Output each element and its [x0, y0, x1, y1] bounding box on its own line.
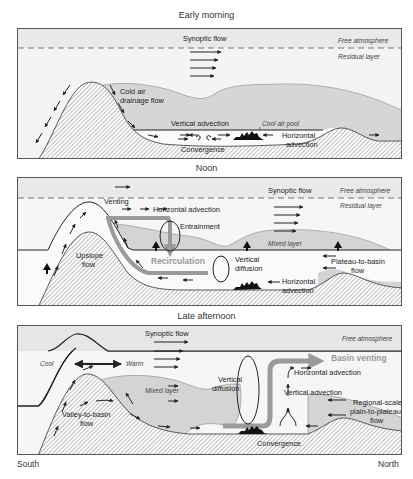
label-convergence: Convergence — [257, 440, 301, 448]
panel-late-afternoon: Synoptic flow Free atmosphere Cool Warm … — [17, 325, 402, 455]
label-synoptic-flow: Synoptic flow — [145, 330, 189, 338]
label-vertical-diffusion-2: diffusion — [235, 265, 262, 273]
label-venting: Venting — [104, 198, 129, 206]
label-residual-layer: Residual layer — [340, 202, 382, 210]
label-residual-layer: Residual layer — [338, 53, 380, 61]
label-entrainment: Entrainment — [180, 223, 220, 231]
panel-noon: Synoptic flow Free atmosphere Residual l… — [17, 177, 402, 306]
label-upslope-2: flow — [82, 261, 95, 269]
panel-title-early-morning: Early morning — [0, 10, 413, 20]
label-valley-to-basin-1: Valley-to-basin — [62, 411, 110, 419]
label-plateau-to-basin-2: flow — [351, 267, 364, 275]
panel-title-late-afternoon: Late afternoon — [0, 311, 413, 321]
label-free-atmosphere: Free atmosphere — [340, 187, 390, 195]
label-mixed-layer: Mixed layer — [268, 240, 302, 248]
label-cold-air-2: drainage flow — [120, 97, 164, 105]
label-horizontal-advection-top: Horizontal advection — [153, 206, 220, 214]
label-cool: Cool — [40, 360, 54, 368]
axis-label-north: North — [378, 459, 399, 469]
label-vertical-advection: Vertical advection — [284, 389, 342, 397]
label-mixed-layer: Mixed layer — [145, 387, 179, 395]
label-recirculation: Recirculation — [151, 257, 205, 265]
axis-label-south: South — [17, 459, 39, 469]
label-free-atmosphere: Free atmosphere — [342, 335, 392, 343]
label-vertical-diffusion-2: diffusion — [212, 385, 239, 393]
label-synoptic-flow: Synoptic flow — [268, 187, 312, 195]
label-upslope-1: Upslope — [76, 252, 103, 260]
label-synoptic-flow: Synoptic flow — [183, 35, 227, 43]
label-cold-air-1: Cold air — [120, 88, 145, 96]
label-vertical-diffusion-1: Vertical — [218, 376, 242, 384]
panel-title-noon: Noon — [0, 163, 413, 173]
label-valley-to-basin-2: flow — [80, 420, 93, 428]
label-horizontal-advection-2: advection — [282, 287, 314, 295]
early-morning-diagram — [18, 29, 402, 159]
label-horizontal-advection-1: Horizontal — [282, 278, 315, 286]
label-convergence: Convergence — [181, 146, 225, 154]
label-regional-2: plain-to-plateau — [350, 408, 401, 416]
label-vertical-diffusion-1: Vertical — [235, 256, 259, 264]
noon-diagram — [18, 178, 402, 306]
label-basin-venting: Basin venting — [331, 354, 387, 362]
label-regional-1: Regional-scale — [353, 399, 402, 407]
label-warm: Warm — [126, 360, 143, 368]
panel-early-morning: Synoptic flow Free atmosphere Residual l… — [17, 28, 402, 159]
label-plateau-to-basin-1: Plateau-to-basin — [331, 258, 385, 266]
label-vertical-advection: Vertical advection — [171, 120, 229, 128]
label-cool-air-pool: Cool air pool — [262, 120, 299, 128]
late-afternoon-diagram — [18, 326, 402, 455]
label-horizontal-advection: Horizontal advection — [294, 369, 361, 377]
label-horizontal-advection-2: advection — [286, 141, 318, 149]
label-free-atmosphere: Free atmosphere — [338, 37, 388, 45]
label-horizontal-advection-1: Horizontal — [282, 132, 315, 140]
label-regional-3: flow — [370, 417, 383, 425]
